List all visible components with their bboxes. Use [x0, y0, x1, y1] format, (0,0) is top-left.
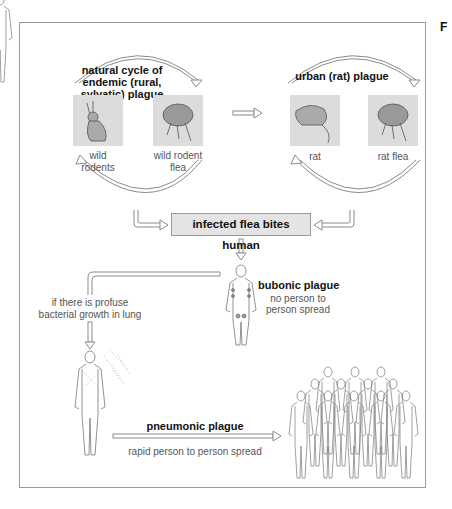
human-pneumonic-figure	[75, 350, 130, 455]
rat-flea-icon	[368, 95, 418, 146]
right-cycle-title: urban (rat) plague	[290, 70, 394, 82]
pneumonic-plague-title: pneumonic plague	[140, 420, 250, 432]
label-wild-rodents: wild rodents	[73, 150, 123, 174]
bubonic-plague-title: bubonic plague	[258, 279, 339, 291]
arrow-left-to-right-cycle	[233, 108, 262, 118]
arrow-right-to-infected	[314, 210, 354, 230]
rat-icon	[290, 95, 340, 146]
wild-rodent-flea-icon	[153, 95, 203, 146]
bubonic-plague-desc: no person to person spread	[262, 293, 334, 315]
arrow-pneumonic-spread	[113, 431, 281, 441]
label-rat-flea: rat flea	[362, 151, 424, 162]
arrow-left-to-infected	[134, 210, 168, 230]
human-bubonic-figure	[226, 265, 256, 345]
condition-text: if there is profuse bacterial growth in …	[32, 297, 148, 321]
infected-flea-bites-human-box: infected flea bites human	[171, 213, 311, 236]
pneumonic-plague-desc: rapid person to person spread	[112, 446, 278, 457]
label-wild-rodent-flea: wild rodent flea	[144, 150, 212, 174]
label-rat: rat	[290, 151, 340, 162]
rabbit-icon	[73, 95, 123, 146]
